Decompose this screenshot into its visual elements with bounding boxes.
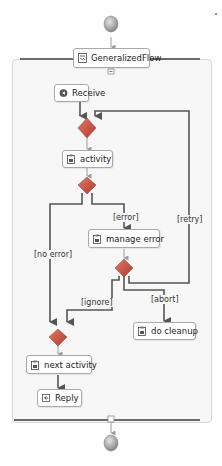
activity-icon xyxy=(138,326,147,336)
activity-node[interactable]: activity xyxy=(62,150,113,168)
next-activity-label: next activity xyxy=(44,360,97,370)
receive-icon xyxy=(59,88,68,98)
flow-diagram-canvas: GeneralizedFlow Receive activity manage … xyxy=(0,0,222,466)
activity-icon xyxy=(67,154,76,164)
edge-label-no-error: [no error] xyxy=(34,250,72,259)
manage-error-node[interactable]: manage error xyxy=(88,229,160,248)
next-activity-node[interactable]: next activity xyxy=(26,355,92,374)
flow-icon xyxy=(78,53,87,63)
activity-icon xyxy=(31,360,40,370)
manage-error-label: manage error xyxy=(106,234,164,244)
receive-node[interactable]: Receive xyxy=(54,84,89,102)
edge-label-retry: [retry] xyxy=(177,215,202,224)
reply-label: Reply xyxy=(55,393,79,403)
edge-label-error: [error] xyxy=(113,213,139,222)
receive-label: Receive xyxy=(72,88,105,98)
start-event-icon[interactable] xyxy=(104,16,118,32)
generalized-flow-label: GeneralizedFlow xyxy=(91,53,161,63)
decision-gateway-1[interactable] xyxy=(78,177,96,194)
generalized-flow-node[interactable]: GeneralizedFlow xyxy=(73,48,150,68)
reply-node[interactable]: Reply xyxy=(37,389,82,407)
edge-label-abort: [abort] xyxy=(151,295,179,304)
activity-icon xyxy=(93,234,102,244)
edge-label-ignore: [ignore] xyxy=(81,298,113,307)
reply-icon xyxy=(42,393,51,403)
end-event-icon[interactable] xyxy=(104,435,118,451)
merge-gateway-2[interactable] xyxy=(49,329,67,346)
decision-gateway-2[interactable] xyxy=(115,259,133,277)
activity-label: activity xyxy=(80,154,111,164)
do-cleanup-node[interactable]: do cleanup xyxy=(133,322,196,340)
do-cleanup-label: do cleanup xyxy=(151,326,198,336)
merge-gateway-1[interactable] xyxy=(78,118,96,138)
